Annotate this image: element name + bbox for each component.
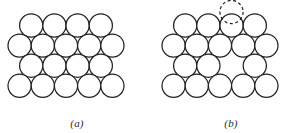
atom-circle bbox=[101, 74, 124, 97]
lattice-diagram-b bbox=[154, 0, 308, 110]
atom-circle bbox=[89, 54, 112, 77]
atom-circle bbox=[43, 14, 66, 37]
atom-circle bbox=[162, 74, 185, 97]
atom-circle bbox=[197, 54, 220, 77]
atom-circle bbox=[197, 14, 220, 37]
atom-circle bbox=[8, 74, 31, 97]
atom-circle bbox=[174, 54, 197, 77]
atom-circle bbox=[220, 14, 243, 37]
panel-a: (a) bbox=[0, 0, 154, 133]
atom-circle bbox=[89, 14, 112, 37]
atom-circle bbox=[101, 34, 124, 57]
atom-circle bbox=[20, 54, 43, 77]
atom-circle bbox=[20, 14, 43, 37]
atom-circle bbox=[8, 34, 31, 57]
panel-b: (b) bbox=[154, 0, 308, 133]
atom-circle bbox=[66, 54, 89, 77]
figure-root: (a) (b) bbox=[0, 0, 308, 133]
panel-a-caption: (a) bbox=[0, 117, 154, 129]
atom-circle bbox=[232, 34, 255, 57]
atom-circle bbox=[162, 34, 185, 57]
atom-circle bbox=[185, 34, 208, 57]
atom-circle bbox=[54, 74, 77, 97]
atom-circle bbox=[255, 34, 278, 57]
atom-circle bbox=[243, 54, 266, 77]
atom-circle bbox=[31, 34, 54, 57]
atom-circle bbox=[43, 54, 66, 77]
atom-circle bbox=[232, 74, 255, 97]
atom-circle bbox=[243, 14, 266, 37]
atom-circle bbox=[255, 74, 278, 97]
atom-circle bbox=[78, 34, 101, 57]
panel-b-caption: (b) bbox=[154, 117, 308, 129]
atom-circle bbox=[174, 14, 197, 37]
atom-circle bbox=[208, 74, 231, 97]
atom-circle bbox=[208, 34, 231, 57]
atom-circle bbox=[31, 74, 54, 97]
atom-circle bbox=[185, 74, 208, 97]
atom-circle bbox=[54, 34, 77, 57]
atom-circle bbox=[66, 14, 89, 37]
atom-circle bbox=[78, 74, 101, 97]
lattice-diagram-a bbox=[0, 0, 154, 110]
